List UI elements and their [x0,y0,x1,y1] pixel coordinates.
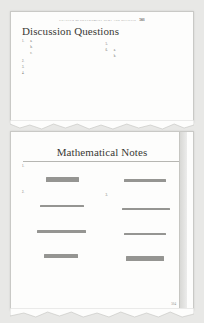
list-item-number: 4. [22,72,24,75]
list-item: 3. [106,193,183,216]
list-item-number: 2. [22,60,24,63]
page-two-folio: 504 [171,302,176,306]
display-equation [26,193,98,211]
list-item: 2. [22,191,99,214]
list-sub-item: c. [30,52,98,55]
list-sub-item: b. [30,46,98,49]
display-equation [26,168,98,186]
page-two-sheet: Mathematical Notes 1.2. 3. 504 [10,131,194,311]
page-title-discussion-questions: Discussion Questions [22,25,193,37]
display-equation [108,221,183,239]
list-item: 4. [22,72,99,75]
list-item-number: 5. [106,43,108,46]
list-item-body [108,219,183,242]
page-one-left-column: 1.a.b.c.2.3.4. [22,40,99,78]
list-sub-item-label: b. [30,46,32,49]
list-item: 1.a.b.c. [22,40,99,58]
page-two-right-column: 3. [106,165,183,270]
list-item-body [108,165,183,188]
list-item [106,244,183,267]
equation-glyphs [46,177,79,182]
list-item-body [26,66,98,69]
list-item-body [26,191,98,214]
list-item-body [26,60,98,63]
display-equation [108,247,183,265]
list-item-body [26,165,98,188]
list-sub-item-body [34,40,98,43]
page-one-sheet: CHAPTER 25 GOVERNMENT DEBT AND DEFICITS … [10,11,194,123]
page-one-columns: 1.a.b.c.2.3.4. 5.6.a.b. [11,37,193,78]
list-item-body [110,43,182,46]
list-item-body [108,244,183,267]
list-item-number: 1. [22,165,24,188]
list-sub-item-body [118,49,182,52]
page-two-columns: 1.2. 3. [11,162,193,270]
list-item-body [24,216,99,239]
list-sub-item-label: a. [30,40,32,43]
list-item-number: 6. [106,49,108,61]
list-item [106,165,183,188]
page-gutter-strip [179,132,187,311]
page-two-left-column: 1.2. [22,165,99,270]
equation-glyphs [126,256,164,261]
list-sub-item-body [118,55,182,58]
list-item-body: a.b.c. [26,40,98,58]
list-item-body [110,193,182,216]
list-sub-item-label: a. [114,49,116,52]
display-equation [24,219,99,237]
list-sub-item-label: c. [30,52,32,55]
list-sub-item-body [35,46,99,49]
equation-glyphs [124,233,166,235]
list-item: 2. [22,60,99,63]
page-one-right-column: 5.6.a.b. [106,40,183,78]
list-item [22,216,99,239]
equation-glyphs [124,179,166,181]
list-item: 5. [106,43,183,46]
equation-glyphs [122,208,170,210]
list-item-body [24,242,99,265]
list-item-body [26,72,98,75]
running-header-folio: 503 [139,18,144,22]
equation-glyphs [37,230,86,232]
equation-glyphs [44,254,78,259]
list-item: 3. [22,66,99,69]
page-title-mathematical-notes: Mathematical Notes [11,146,193,158]
list-item: 1. [22,165,99,188]
list-item-number: 3. [22,66,24,69]
running-header-chapter: CHAPTER 25 GOVERNMENT DEBT AND DEFICITS [59,19,136,22]
list-item [106,219,183,242]
list-sub-item: b. [114,55,182,58]
equation-glyphs [40,205,84,207]
list-sub-item-body [34,52,98,55]
list-item-number: 2. [22,191,24,214]
display-equation [24,244,99,262]
list-item-number: 1. [22,40,24,58]
scanned-document-view: { "background_color": "#e8e8e6", "paper_… [0,0,204,323]
list-sub-item-label: b. [114,55,116,58]
list-item-number: 3. [106,193,108,216]
display-equation [108,168,183,186]
list-item: 6.a.b. [106,49,183,61]
torn-edge-page-two [10,308,194,322]
display-equation [110,196,182,214]
list-sub-item: a. [114,49,182,52]
list-sub-item: a. [30,40,98,43]
running-header: CHAPTER 25 GOVERNMENT DEBT AND DEFICITS … [23,18,181,23]
list-item [22,242,99,265]
list-item-body: a.b. [110,49,182,61]
